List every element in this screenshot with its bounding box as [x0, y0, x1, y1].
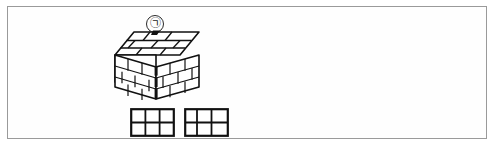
brick-solid-giyeok: [96, 29, 218, 111]
layer-plan-giyeok-even: [184, 108, 229, 137]
figure-root: ㉠: [0, 0, 494, 146]
layer-plans-giyeok: [130, 108, 229, 137]
layer-plan-giyeok-odd: [130, 108, 175, 137]
brick-solid-giyeok-svg: [96, 29, 218, 107]
panel-giyeok: ㉠: [38, 7, 238, 138]
figure-frame: ㉠: [7, 6, 487, 139]
panel-nieun: ㉡: [248, 7, 458, 138]
